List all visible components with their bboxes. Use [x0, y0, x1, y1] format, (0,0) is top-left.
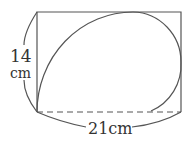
quarter-arc: [37, 12, 133, 112]
circle-arc: [133, 12, 181, 111]
geometry-diagram: 14 cm 21cm: [0, 0, 190, 148]
height-label-value: 14: [10, 46, 32, 66]
rectangle-outline: [37, 12, 181, 112]
height-label-unit: cm: [10, 65, 31, 81]
width-label: 21cm: [88, 119, 133, 138]
